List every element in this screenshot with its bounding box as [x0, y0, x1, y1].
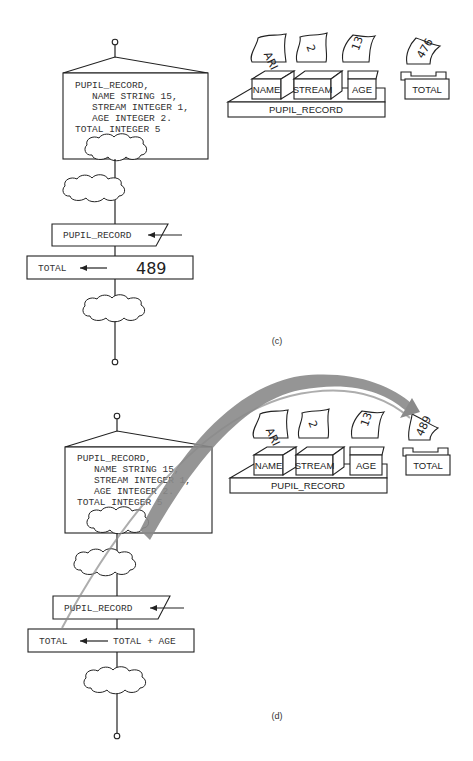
diagram-canvas: PUPIL_RECORD, NAME STRING 15, STREAM INT… [0, 0, 473, 761]
decl-line: PUPIL_RECORD, [77, 453, 151, 464]
start-terminal [112, 39, 118, 45]
decl-line: PUPIL_RECORD, [75, 80, 149, 91]
start-terminal [114, 413, 120, 419]
decl-line: NAME STRING 15, [75, 91, 178, 102]
field-label: NAME [255, 460, 282, 471]
cloud-icon [85, 134, 147, 161]
end-terminal [114, 733, 120, 739]
declaration-roof [63, 57, 208, 73]
input-box-label: PUPIL_RECORD [63, 230, 132, 241]
flowchart-c: PUPIL_RECORD, NAME STRING 15, STREAM INT… [27, 39, 208, 365]
end-terminal [112, 359, 118, 365]
cloud-icon [84, 667, 146, 694]
decl-line: NAME STRING 15, [77, 464, 180, 475]
decl-line: TOTAL INTEGER 5 [75, 124, 161, 135]
decl-line: AGE INTEGER 2. [75, 113, 172, 124]
assign-value: TOTAL + AGE [113, 636, 176, 647]
memory-d: PUPIL_RECORD ARI NAME 2 STREAM 13 AGE 48… [230, 409, 450, 493]
panel-caption: (d) [272, 711, 283, 721]
field-label: STREAM [293, 84, 333, 95]
panel-d: PUPIL_RECORD, NAME STRING 15, STREAM INT… [28, 375, 450, 739]
declaration-roof [65, 431, 212, 447]
field-label: STREAM [295, 460, 335, 471]
field-label: AGE [356, 460, 376, 471]
panel-caption: (c) [272, 336, 283, 346]
record-label: PUPIL_RECORD [271, 480, 345, 491]
cloud-icon [63, 175, 125, 202]
decl-line: STREAM INTEGER 1, [75, 102, 189, 113]
assign-target: TOTAL [38, 263, 67, 274]
cloud-icon [74, 549, 136, 576]
panel-c: PUPIL_RECORD, NAME STRING 15, STREAM INT… [27, 33, 449, 365]
field-label: NAME [253, 84, 280, 95]
decl-line: TOTAL INTEGER 5 [77, 497, 163, 508]
total-label: TOTAL [412, 84, 442, 95]
assign-target: TOTAL [39, 636, 68, 647]
field-label: AGE [352, 84, 372, 95]
assign-value: 489 [136, 259, 167, 278]
cloud-icon [87, 507, 149, 534]
total-label: TOTAL [413, 460, 443, 471]
memory-c: PUPIL_RECORD ARI NAME 2 STREAM 13 AGE 47… [228, 33, 449, 117]
record-label: PUPIL_RECORD [269, 104, 343, 115]
cloud-icon [83, 295, 145, 322]
